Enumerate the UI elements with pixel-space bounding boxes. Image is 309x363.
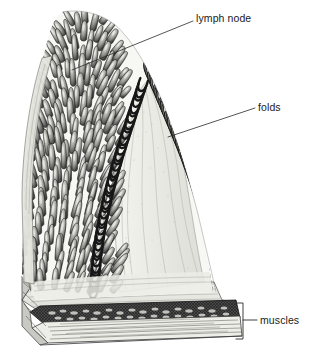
villus-profile <box>204 229 216 244</box>
villus <box>61 142 67 169</box>
label-muscles: muscles <box>260 314 299 326</box>
villus <box>12 265 24 290</box>
villus <box>14 111 29 129</box>
villus-profile <box>206 235 218 252</box>
villus <box>6 205 21 230</box>
villus <box>11 119 25 135</box>
villus-profile <box>202 219 214 235</box>
villus <box>16 100 29 118</box>
villus-profile <box>199 208 212 226</box>
villus <box>10 261 23 285</box>
villus-profile <box>207 242 218 256</box>
villus <box>7 186 23 211</box>
label-lymph-node: lymph node <box>196 12 251 24</box>
villus <box>13 199 23 218</box>
mucosa-body <box>0 0 309 320</box>
villus-profile <box>208 245 219 261</box>
villus-profile <box>208 248 219 265</box>
villus-profile <box>210 262 221 279</box>
anatomy-figure: lymph node folds muscles <box>0 0 309 363</box>
villus-profile <box>194 192 207 208</box>
villus-profile <box>201 215 213 230</box>
illustration-canvas <box>0 0 309 363</box>
villus-profile <box>209 256 220 270</box>
villus <box>9 155 22 172</box>
leader-folds <box>168 108 255 137</box>
villus-profile <box>205 232 217 248</box>
villus-profile <box>193 189 206 204</box>
villus-profile <box>198 202 210 217</box>
villus-profile <box>195 195 208 213</box>
villus-profile <box>198 205 210 221</box>
villus <box>10 141 24 163</box>
label-folds: folds <box>258 101 281 113</box>
villus-profile <box>203 222 215 239</box>
